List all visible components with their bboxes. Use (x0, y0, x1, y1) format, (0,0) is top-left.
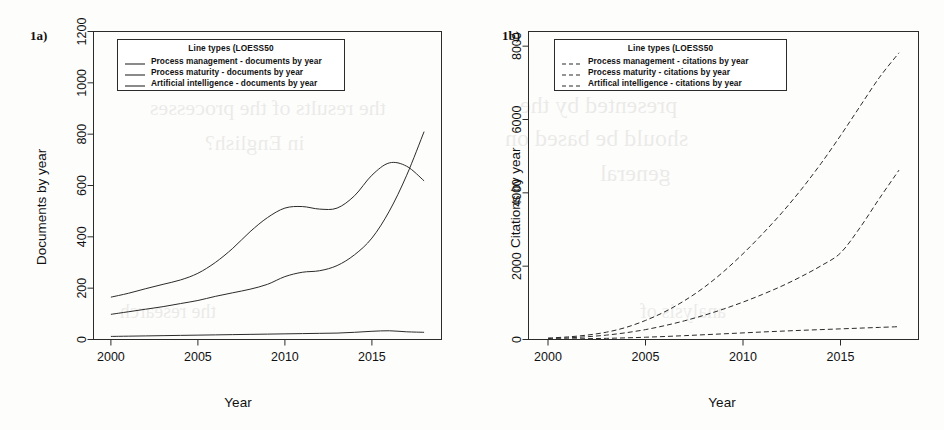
series-line-1 (548, 53, 899, 338)
legend-line-sample (561, 77, 583, 88)
x-tick-label: 2015 (358, 350, 386, 364)
y-tick-label: 800 (75, 124, 89, 145)
panel-1b-legend-title: Line types (LOESS50 (555, 40, 786, 55)
figure-page: the results of the processesin English?p… (0, 0, 944, 430)
y-tick-label: 200 (75, 278, 89, 299)
series-line-3 (111, 331, 424, 337)
panel-1b-legend: Line types (LOESS50 Process management -… (554, 39, 787, 91)
y-tick-label: 4000 (510, 179, 524, 207)
y-tick-label: 1200 (75, 18, 89, 46)
legend-item-label: Process maturity - documents by year (151, 67, 303, 77)
panel-1b-legend-rows: Process management - citations by yearPr… (555, 55, 786, 92)
legend-line-sample (124, 55, 146, 66)
series-line-2 (111, 132, 424, 315)
panel-1a-legend-rows: Process management - documents by yearPr… (118, 55, 344, 92)
series-line-2 (548, 170, 899, 338)
legend-line-sample (561, 55, 583, 66)
legend-item-label: Artificial intelligence - documents by y… (151, 78, 317, 88)
y-tick-label: 2000 (510, 252, 524, 280)
y-tick-label: 600 (75, 175, 89, 196)
legend-item: Artifical intelligence - citations by ye… (561, 77, 781, 88)
legend-line-sample (561, 66, 583, 77)
legend-line-sample (124, 77, 146, 88)
x-tick-label: 2010 (271, 350, 299, 364)
y-tick-label: 1000 (75, 69, 89, 97)
legend-item: Process management - citations by year (561, 55, 781, 66)
legend-item-label: Process maturity - citations by year (588, 67, 730, 77)
panel-1a-legend: Line types (LOESS50 Process management -… (117, 39, 345, 91)
y-tick-label: 400 (75, 226, 89, 247)
legend-item: Process maturity - citations by year (561, 66, 781, 77)
legend-item: Artificial intelligence - documents by y… (124, 77, 339, 88)
legend-item-label: Process management - citations by year (588, 56, 749, 66)
x-tick-label: 2005 (632, 350, 660, 364)
panel-1b-series-group (548, 53, 899, 339)
panel-1a-x-axis: 2000200520102015 (97, 340, 386, 364)
panel-1a: 1a) Documents by year Year 0200400600800… (0, 0, 472, 430)
y-tick-label: 8000 (510, 32, 524, 60)
legend-item-label: Artifical intelligence - citations by ye… (588, 78, 742, 88)
panel-1a-series-group (111, 132, 424, 337)
panel-1b: 1b) Citations by year Year 0200040006000… (472, 0, 944, 430)
x-tick-label: 2005 (184, 350, 212, 364)
legend-item-label: Process management - documents by year (151, 56, 322, 66)
legend-item: Process management - documents by year (124, 55, 339, 66)
panel-1a-legend-title: Line types (LOESS50 (118, 40, 344, 55)
panel-1a-y-axis: 020040060080010001200 (75, 18, 94, 343)
legend-item: Process maturity - documents by year (124, 66, 339, 77)
y-tick-label: 6000 (510, 106, 524, 134)
x-tick-label: 2000 (97, 350, 125, 364)
panel-1b-x-axis: 2000200520102015 (534, 340, 854, 364)
legend-line-sample (124, 66, 146, 77)
y-tick-label: 0 (510, 336, 524, 343)
y-tick-label: 0 (75, 336, 89, 343)
series-line-1 (111, 162, 424, 297)
x-tick-label: 2010 (729, 350, 757, 364)
x-tick-label: 2015 (827, 350, 855, 364)
panel-1b-y-axis: 02000400060008000 (510, 32, 529, 343)
x-tick-label: 2000 (534, 350, 562, 364)
